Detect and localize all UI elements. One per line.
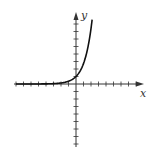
x-axis-label: x <box>140 87 147 100</box>
y-axis-label: y <box>80 9 88 22</box>
axes <box>14 12 144 147</box>
y-axis-arrow-icon <box>74 12 79 20</box>
x-axis-arrow-icon <box>136 82 144 87</box>
exponential-curve <box>16 20 92 84</box>
exponential-graph: x y <box>0 0 157 150</box>
